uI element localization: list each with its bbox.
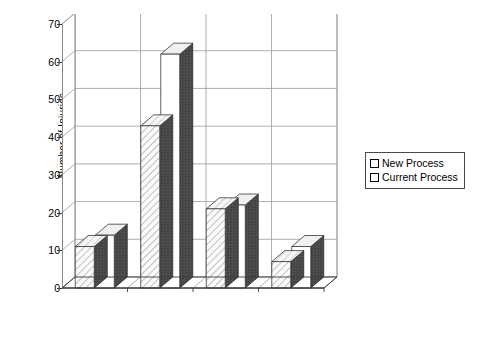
y-axis-tick-mark	[57, 137, 62, 138]
x-axis-tick-label: A-line	[88, 294, 115, 296]
legend-label: New Process	[382, 158, 444, 169]
chart-legend: New Process Current Process	[365, 152, 465, 189]
bar	[141, 115, 173, 288]
legend-item-current-process: Current Process	[370, 170, 458, 184]
y-axis-title-wrapper: Number of Injuries	[8, 40, 28, 240]
legend-swatch-icon	[370, 159, 379, 168]
plot-area: A-lineDS-lineR-lineDC-line	[62, 14, 354, 296]
y-axis-tick-mark	[57, 250, 62, 251]
bar	[206, 198, 238, 288]
x-axis-tick-label: DS-line	[150, 294, 185, 296]
y-axis-tick-mark	[57, 24, 62, 25]
legend-item-new-process: New Process	[370, 156, 458, 170]
y-axis-tick-mark	[57, 62, 62, 63]
y-axis-tick-mark	[57, 175, 62, 176]
y-axis-tick-mark	[57, 99, 62, 100]
legend-swatch-icon	[370, 173, 379, 182]
bar	[75, 236, 107, 288]
bar-chart-svg: A-lineDS-lineR-lineDC-line	[62, 14, 354, 296]
y-axis-tick-mark	[57, 288, 62, 289]
y-axis-tick-labels: 010203040506070	[30, 0, 60, 339]
legend-label: Current Process	[382, 172, 458, 183]
x-axis-tick-label: DC-line	[281, 294, 316, 296]
x-axis-tick-label: R-line	[219, 294, 247, 296]
y-axis-tick-mark	[57, 213, 62, 214]
chart-canvas: Number of Injuries 010203040506070 A-lin…	[0, 0, 479, 339]
